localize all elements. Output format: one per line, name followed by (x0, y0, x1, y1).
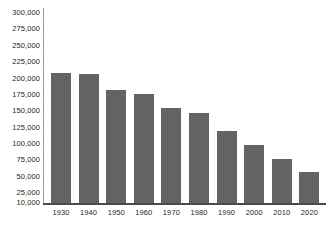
bar-slot (244, 13, 264, 203)
bar-slot (189, 13, 209, 203)
bar-1960[interactable] (134, 94, 154, 203)
y-axis-tick-label: 25,000 (0, 189, 40, 197)
bar-slot (51, 13, 71, 203)
x-axis-line (43, 203, 326, 205)
y-axis-tick-label: 150,000 (0, 107, 40, 115)
y-axis-tick-label: 100,000 (0, 140, 40, 148)
y-axis-tick-label: 175,000 (0, 91, 40, 99)
bar-1930[interactable] (51, 73, 71, 203)
y-axis-tick-label: 200,000 (0, 75, 40, 83)
y-axis-tick-label: 250,000 (0, 42, 40, 50)
bar-2000[interactable] (244, 145, 264, 203)
y-axis-tick-label: 300,000 (0, 9, 40, 17)
bar-2010[interactable] (272, 159, 292, 203)
plot-area (44, 13, 326, 203)
y-axis-tick-label: 125,000 (0, 124, 40, 132)
bar-1950[interactable] (106, 90, 126, 203)
y-axis-tick-label: 50,000 (0, 173, 40, 181)
bar-slot (217, 13, 237, 203)
y-axis-tick-label: 10,000 (0, 199, 40, 207)
bar-chart: 300,000275,000250,000225,000200,000175,0… (0, 0, 330, 245)
bar-slot (272, 13, 292, 203)
y-axis-labels: 300,000275,000250,000225,000200,000175,0… (0, 0, 40, 245)
bar-slot (161, 13, 181, 203)
bar-slot (106, 13, 126, 203)
y-axis-tick-label: 225,000 (0, 58, 40, 66)
bar-1980[interactable] (189, 113, 209, 203)
bar-1970[interactable] (161, 108, 181, 203)
bar-slot (79, 13, 99, 203)
bar-slot (134, 13, 154, 203)
y-axis-tick-label: 275,000 (0, 25, 40, 33)
bar-1940[interactable] (79, 74, 99, 203)
x-axis-tick-label: 2020 (292, 208, 326, 217)
bar-1990[interactable] (217, 131, 237, 203)
bar-2020[interactable] (299, 172, 319, 203)
y-axis-tick-label: 75,000 (0, 156, 40, 164)
bar-slot (299, 13, 319, 203)
